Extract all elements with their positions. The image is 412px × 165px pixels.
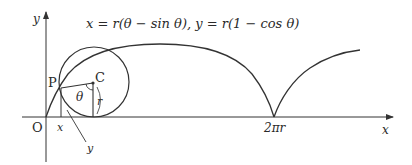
equation-label: x = r(θ − sin θ), y = r(1 − cos θ) [86, 16, 299, 31]
x-axis-label: x [382, 123, 389, 137]
theta-arc [86, 84, 93, 90]
y-coord-label: y [86, 142, 94, 155]
x-coord-label: x [57, 121, 64, 134]
cycloid-arch [46, 44, 274, 117]
origin-label: O [32, 120, 43, 135]
point-p-label: P [48, 75, 57, 90]
cusp-label: 2πr [263, 121, 287, 135]
cycloid-next-arch [274, 50, 360, 117]
theta-label: θ [76, 90, 84, 104]
radius-cp [61, 83, 93, 88]
radius-label: r [97, 95, 103, 108]
cycloid-diagram: x = r(θ − sin θ), y = r(1 − cos θ) y x O… [0, 0, 412, 165]
y-axis-label: y [32, 12, 40, 26]
point-c-label: C [95, 70, 105, 85]
